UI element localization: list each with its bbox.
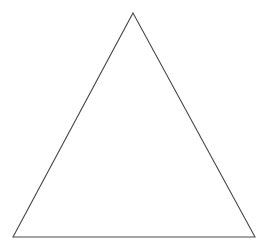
canvas-background [0,0,271,251]
figure-svg [0,0,271,251]
drawing-canvas [0,0,271,251]
